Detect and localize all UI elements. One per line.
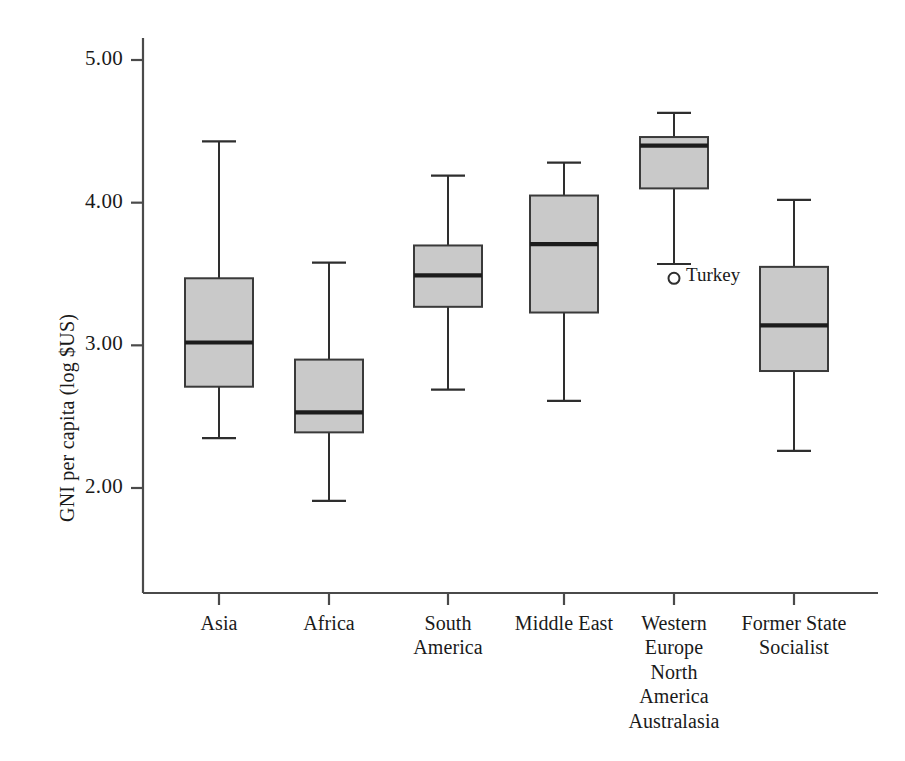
x-tick-label-line: Australasia — [574, 709, 774, 733]
box-plot-2 — [295, 263, 363, 501]
x-tick-label-line: America — [348, 635, 548, 659]
y-tick-label: 2.00 — [53, 474, 123, 499]
x-tick-label-line: America — [574, 684, 774, 708]
x-tick-label: Former StateSocialist — [694, 611, 894, 660]
outlier-marker — [669, 273, 680, 284]
x-tick-label-line: North — [574, 660, 774, 684]
iqr-box — [295, 360, 363, 433]
box-plot-5 — [640, 113, 708, 284]
box-series — [185, 113, 828, 501]
iqr-box — [760, 267, 828, 371]
iqr-box — [185, 278, 253, 386]
x-tick-label-line: Former State — [694, 611, 894, 635]
box-plot-4 — [530, 163, 598, 401]
box-plot-6 — [760, 200, 828, 451]
y-tick-label: 5.00 — [53, 46, 123, 71]
iqr-box — [530, 196, 598, 313]
y-tick-label: 3.00 — [53, 331, 123, 356]
box-plot-1 — [185, 141, 253, 438]
outlier-label: Turkey — [686, 264, 740, 286]
box-plot-3 — [414, 176, 482, 390]
x-tick-label-line: Socialist — [694, 635, 894, 659]
y-tick-label: 4.00 — [53, 189, 123, 214]
box-plot-figure: GNI per capita (log $US) 2.003.004.005.0… — [0, 0, 905, 761]
